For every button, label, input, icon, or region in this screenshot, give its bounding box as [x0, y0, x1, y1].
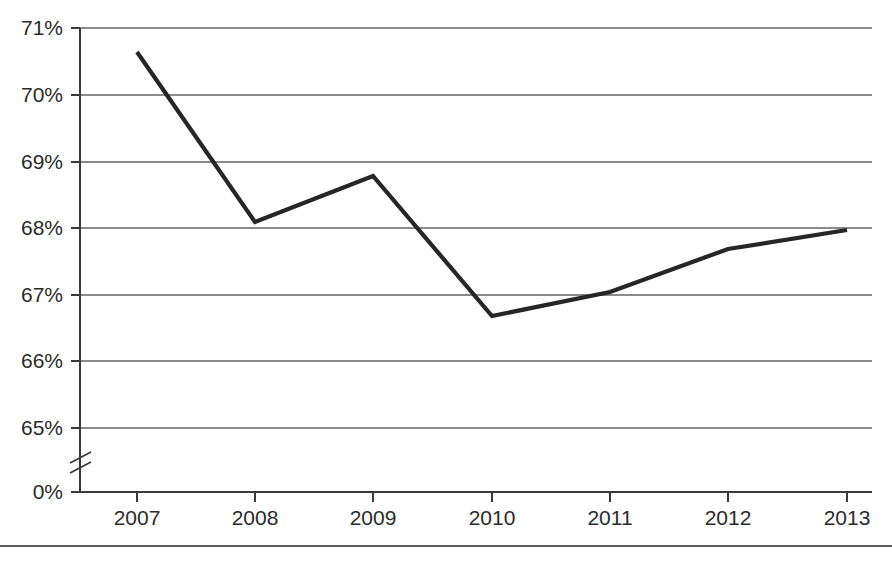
x-axis-label-2011: 2011	[587, 506, 632, 529]
x-axis-label-2009: 2009	[350, 506, 397, 529]
x-axis-label-2012: 2012	[705, 506, 752, 529]
line-chart: 71% 70% 69% 68% 67% 66% 65% 0% 2007 2008…	[0, 0, 892, 562]
y-axis-label-69: 69%	[21, 150, 63, 173]
y-axis-label-67: 67%	[21, 283, 63, 306]
x-axis-label-2008: 2008	[232, 506, 279, 529]
y-axis-label-0: 0%	[33, 480, 63, 503]
y-axis-label-66: 66%	[21, 349, 63, 372]
x-axis-label-2010: 2010	[469, 506, 516, 529]
y-axis-label-70: 70%	[21, 83, 63, 106]
y-axis-label-65: 65%	[21, 416, 63, 439]
x-axis-label-2007: 2007	[114, 506, 161, 529]
y-axis-label-68: 68%	[21, 216, 63, 239]
x-axis-label-2013: 2013	[824, 506, 871, 529]
chart-background	[0, 0, 892, 562]
y-axis-label-71: 71%	[21, 16, 63, 39]
chart-container: 71% 70% 69% 68% 67% 66% 65% 0% 2007 2008…	[0, 0, 892, 562]
